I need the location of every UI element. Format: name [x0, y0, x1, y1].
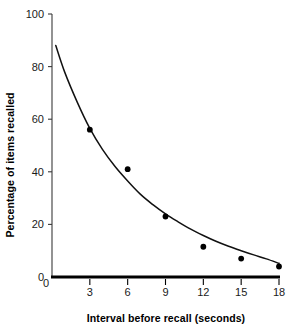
data-point: [125, 166, 131, 172]
x-tick-label: 18: [273, 286, 285, 298]
data-point: [238, 256, 244, 262]
y-axis-ticks: 020406080100: [26, 8, 52, 283]
chart-plot-area: 020406080100 0369121518 Interval before …: [0, 0, 295, 331]
x-tick-label: 6: [125, 286, 131, 298]
y-tick-label: 40: [32, 166, 44, 178]
x-tick-label: 12: [197, 286, 209, 298]
data-point: [87, 127, 93, 133]
data-point: [276, 264, 282, 270]
x-tick-label: 0: [43, 277, 49, 289]
x-tick-label: 9: [162, 286, 168, 298]
y-tick-label: 60: [32, 113, 44, 125]
y-tick-label: 100: [26, 8, 44, 20]
x-axis-title: Interval before recall (seconds): [87, 312, 245, 324]
x-axis-ticks: 0369121518: [43, 277, 285, 298]
y-tick-label: 80: [32, 61, 44, 73]
forgetting-curve-chart: 020406080100 0369121518 Interval before …: [0, 0, 295, 331]
data-points: [87, 127, 282, 270]
y-axis-title: Percentage of items recalled: [4, 92, 16, 237]
x-tick-label: 3: [87, 286, 93, 298]
x-tick-label: 15: [235, 286, 247, 298]
fitted-forgetting-curve: [56, 46, 279, 264]
data-point: [200, 244, 206, 250]
y-tick-label: 20: [32, 218, 44, 230]
data-point: [163, 214, 169, 220]
